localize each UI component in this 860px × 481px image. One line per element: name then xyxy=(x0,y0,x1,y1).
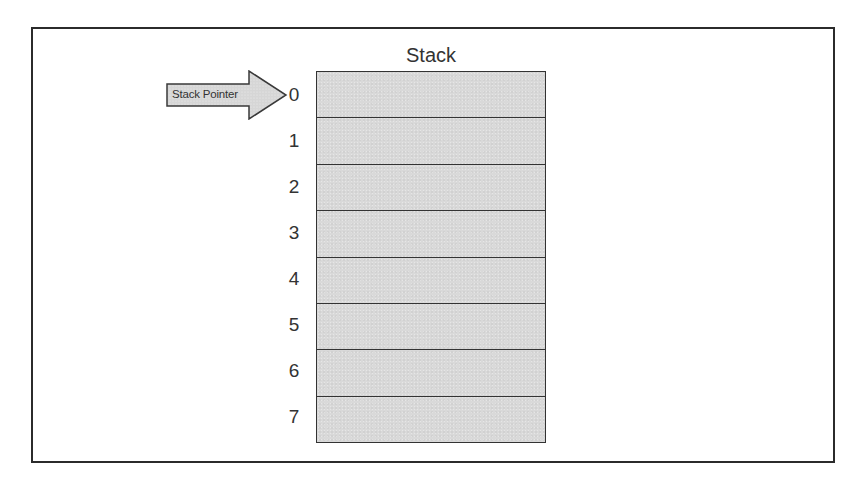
stack-slot-6 xyxy=(317,349,545,395)
stack-box xyxy=(316,71,546,443)
slot-index-4: 4 xyxy=(282,268,306,290)
slot-index-5: 5 xyxy=(282,314,306,336)
stack-slot-0 xyxy=(317,72,545,117)
slot-index-0: 0 xyxy=(282,84,306,106)
slot-index-3: 3 xyxy=(282,222,306,244)
stack-slot-5 xyxy=(317,303,545,349)
slot-index-1: 1 xyxy=(282,130,306,152)
stack-title: Stack xyxy=(316,44,546,67)
stack-pointer-label: Stack Pointer xyxy=(172,88,238,100)
slot-index-2: 2 xyxy=(282,176,306,198)
stack-slot-2 xyxy=(317,164,545,210)
stack-slot-7 xyxy=(317,396,545,442)
slot-index-7: 7 xyxy=(282,406,306,428)
stack-slot-4 xyxy=(317,257,545,303)
stack-slot-3 xyxy=(317,210,545,256)
stack-slot-1 xyxy=(317,117,545,163)
slot-index-6: 6 xyxy=(282,360,306,382)
